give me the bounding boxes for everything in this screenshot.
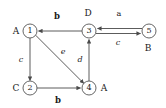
node-tag-1: A xyxy=(13,27,20,36)
edge-label-3-to-1: b xyxy=(54,12,60,21)
edge-label-1-to-4: e xyxy=(61,48,66,56)
edge-label-1-to-2: c xyxy=(19,56,23,64)
node-label-1: 1 xyxy=(27,27,32,35)
node-tag-2: C xyxy=(13,84,20,93)
node-label-3: 3 xyxy=(86,27,91,35)
node-label-5: 5 xyxy=(146,27,151,35)
node-label-4: 4 xyxy=(86,84,91,92)
edge-label-4-to-3: d xyxy=(77,56,82,64)
graph-vector-layer xyxy=(0,0,166,108)
node-tag-3: D xyxy=(84,9,91,18)
edge-label-5-to-3: a xyxy=(117,10,122,18)
edge-label-3-to-5: c xyxy=(116,39,120,47)
node-label-2: 2 xyxy=(27,84,32,92)
graph-diagram-canvas: 1 2 3 4 5 A C D A B b c e d b a c xyxy=(0,0,166,108)
node-tag-4: A xyxy=(101,84,108,93)
edge-label-2-to-4: b xyxy=(55,96,61,105)
node-tag-5: B xyxy=(145,44,152,53)
